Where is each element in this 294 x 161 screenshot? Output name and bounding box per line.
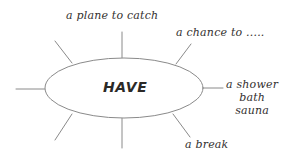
center-node-label: HAVE — [103, 79, 147, 95]
spoke-label-shower-line-1: a shower — [226, 78, 278, 91]
spoke-label-shower-line-3: sauna — [226, 104, 278, 117]
spoke-label-chance: a chance to ..... — [176, 26, 265, 39]
spoke-line-chance — [176, 44, 191, 64]
spoke-line-break — [173, 114, 190, 137]
spoke-label-plane: a plane to catch — [66, 9, 158, 22]
word-web-diagram: HAVE a plane to catch a chance to ..... … — [0, 0, 294, 161]
spoke-line-blank-top-left — [55, 41, 72, 63]
spoke-label-shower-line-2: bath — [226, 91, 278, 104]
spoke-line-blank-bottom-left — [55, 114, 72, 140]
spoke-label-break: a break — [185, 138, 229, 151]
spoke-label-shower: a shower bath sauna — [226, 78, 278, 117]
